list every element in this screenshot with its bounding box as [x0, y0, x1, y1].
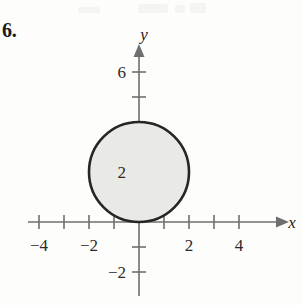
y-tick-label-6: 6: [118, 63, 127, 82]
x-tick-label-2: 2: [185, 236, 194, 255]
y-tick-label-2: 2: [118, 163, 127, 182]
y-axis-label: y: [138, 25, 148, 44]
shaded-disk: [89, 122, 189, 222]
x-tick-label-4: 4: [235, 236, 244, 255]
figure-page: 6.: [0, 0, 302, 305]
x-axis-label: x: [287, 213, 296, 232]
coordinate-plane: −4 −2 2 4 6 2 −2 x y: [0, 0, 302, 305]
x-tick-label--2: −2: [80, 236, 98, 255]
y-tick-label--2: −2: [108, 263, 126, 282]
x-tick-label--4: −4: [30, 236, 49, 255]
